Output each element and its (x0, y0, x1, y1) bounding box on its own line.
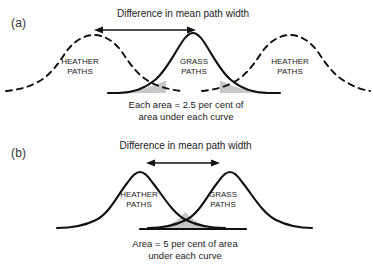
curve-label-b-grass: GRASS PATHS (197, 190, 249, 209)
curve-label-line2: PATHS (277, 67, 302, 76)
panel-a-caption: Each area = 2.5 per cent of area under e… (86, 99, 286, 122)
caption-line1: Area = 5 per cent of area (132, 238, 237, 249)
panel-b-heading: Difference in mean path width (78, 140, 293, 151)
curve-label-a-heather-left: HEATHER PATHS (52, 57, 108, 76)
curve-label-line2: PATHS (67, 67, 92, 76)
curve-label-line2: PATHS (126, 200, 151, 209)
curve-label-line2: PATHS (181, 67, 206, 76)
curve-label-b-heather: HEATHER PATHS (110, 190, 168, 209)
curve-label-line1: HEATHER (61, 57, 99, 66)
curve-label-line1: HEATHER (120, 190, 158, 199)
panel-a-heading: Difference in mean path width (63, 8, 303, 19)
panel-label-a: (a) (11, 16, 26, 30)
caption-line2: under each curve (148, 250, 221, 261)
panel-b-graphics (57, 159, 312, 229)
caption-line2: area under each curve (138, 111, 233, 122)
caption-line1: Each area = 2.5 per cent of (129, 99, 244, 110)
panel-b-caption: Area = 5 per cent of area under each cur… (95, 238, 275, 261)
arrow-a-mean-difference (94, 26, 196, 33)
curve-label-line1: GRASS (209, 190, 237, 199)
curve-label-a-heather-right: HEATHER PATHS (262, 57, 318, 76)
curve-label-line2: PATHS (210, 200, 235, 209)
curve-label-line1: GRASS (180, 57, 208, 66)
distribution-curves-svg (0, 0, 373, 267)
arrow-b-mean-difference (146, 159, 220, 166)
curve-label-line1: HEATHER (271, 57, 309, 66)
curve-label-a-grass: GRASS PATHS (168, 57, 220, 76)
figure-container: (a) (b) Difference in mean path width Di… (0, 0, 373, 267)
panel-label-b: (b) (11, 146, 26, 160)
